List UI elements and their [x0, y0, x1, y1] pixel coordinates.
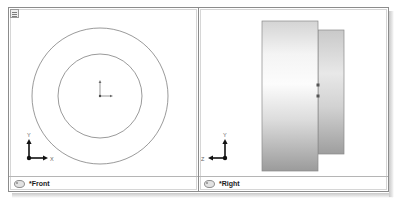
viewport-right-label: *Right — [219, 180, 240, 188]
corner-widget-line — [12, 12, 17, 13]
axis-gizmo-front: Y X — [23, 131, 59, 165]
window-shadow-bottom — [12, 193, 393, 198]
viewport-title-icon[interactable] — [14, 180, 25, 188]
viewport-right-titlebar[interactable]: *Right — [199, 177, 240, 191]
outer-ring-face — [262, 21, 318, 171]
viewport-front-label: *Front — [29, 180, 50, 188]
cad-window: Y X *Front — [0, 0, 399, 207]
axis-label-z: Z — [201, 156, 205, 162]
edge-marker — [317, 84, 320, 87]
viewport-front[interactable]: Y X *Front — [9, 8, 198, 191]
corner-widget-line — [12, 14, 17, 15]
viewport-title-icon[interactable] — [204, 180, 215, 188]
axis-label-y: Y — [223, 132, 227, 138]
viewport-front-titlebar[interactable]: *Front — [9, 177, 50, 191]
edge-marker — [317, 95, 320, 98]
axis-gizmo-right: Y Z — [201, 131, 237, 165]
origin-marker-icon — [99, 80, 113, 97]
axis-label-y: Y — [27, 132, 31, 138]
viewport-layout-control[interactable] — [10, 9, 19, 18]
viewport-divider[interactable] — [198, 8, 199, 191]
window-shadow-right — [389, 11, 394, 197]
corner-widget-line — [12, 16, 17, 17]
viewport-right[interactable]: Y Z *Right — [199, 8, 388, 191]
inner-ring-face — [318, 30, 344, 154]
axis-label-x: X — [50, 156, 54, 162]
